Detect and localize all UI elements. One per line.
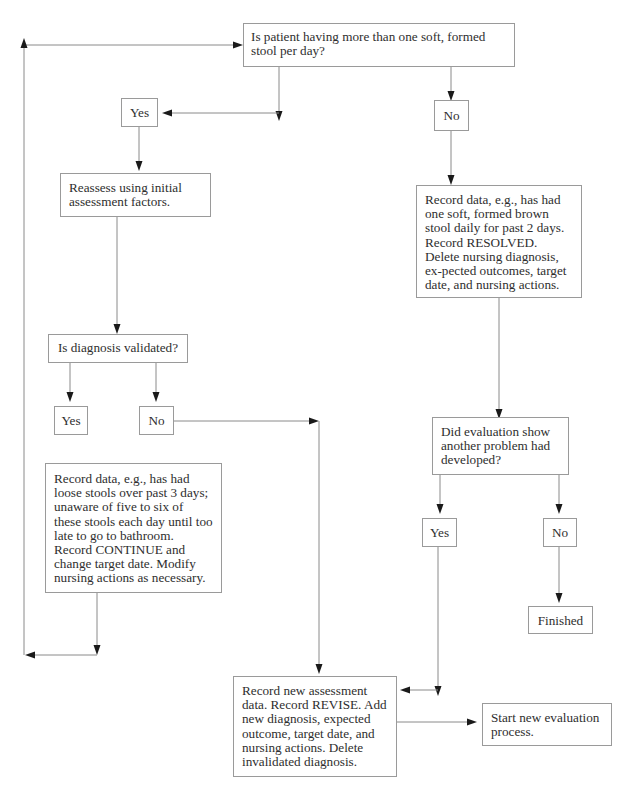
- node-record-continue: Record data, e.g., has had loose stools …: [45, 463, 222, 593]
- arrowhead-down-icon: [437, 504, 444, 514]
- arrowhead-down-icon: [435, 686, 442, 696]
- node-yes-2: Yes: [54, 406, 88, 435]
- node-start-new-evaluation: Start new evaluation process.: [482, 703, 612, 746]
- arrowhead-left-icon: [25, 652, 35, 659]
- arrowhead-down-icon: [114, 324, 121, 334]
- arrowhead-down-icon: [136, 161, 143, 171]
- node-record-revise: Record new assessment data. Record REVIS…: [233, 676, 397, 777]
- arrowhead-down-icon: [67, 392, 74, 402]
- arrowhead-right-icon: [467, 719, 477, 726]
- arrowhead-down-icon: [153, 392, 160, 402]
- node-no-2: No: [139, 406, 174, 435]
- arrowhead-down-icon: [556, 504, 563, 514]
- node-record-resolved: Record data, e.g., has had one soft, for…: [416, 185, 582, 298]
- arrowhead-down-icon: [316, 664, 323, 674]
- arrowhead-right-icon: [233, 42, 243, 49]
- node-no-1: No: [434, 100, 469, 131]
- node-reassess: Reassess using initial assessment factor…: [60, 173, 211, 217]
- node-yes-1: Yes: [121, 98, 158, 127]
- arrowhead-down-icon: [556, 593, 563, 603]
- node-finished: Finished: [528, 606, 593, 634]
- node-question-another-problem: Did evaluation show another problem had …: [432, 417, 569, 475]
- arrowhead-up-icon: [21, 38, 28, 48]
- arrowhead-right-icon: [309, 418, 319, 425]
- arrowhead-down-icon: [94, 645, 101, 655]
- node-no-3: No: [543, 518, 577, 547]
- arrowhead-left-icon: [400, 687, 410, 694]
- flowchart: Is patient having more than one soft, fo…: [0, 0, 635, 806]
- arrowhead-down-icon: [448, 175, 455, 185]
- node-question-validated: Is diagnosis validated?: [48, 334, 188, 363]
- node-question-stool: Is patient having more than one soft, fo…: [243, 23, 515, 67]
- arrowhead-left-icon: [162, 110, 172, 117]
- node-yes-3: Yes: [422, 518, 457, 547]
